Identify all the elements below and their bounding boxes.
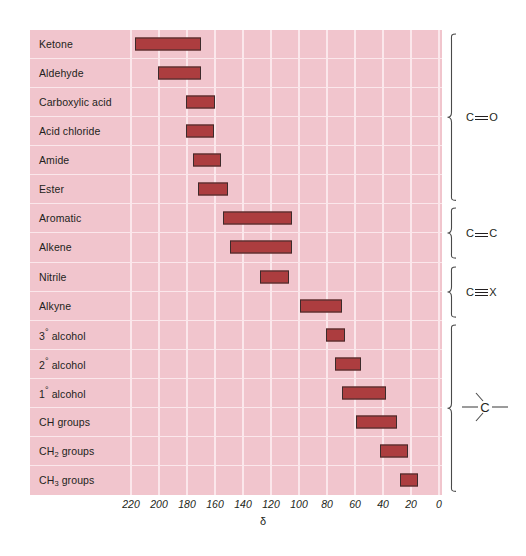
category-row: Carboxylic acid: [30, 88, 442, 117]
shift-range-bar: [326, 328, 346, 341]
row-label-nitrile: Nitrile: [39, 271, 67, 283]
brace-group-alkene: CC: [446, 207, 526, 259]
row-label-carboxylic-acid: Carboxylic acid: [39, 96, 112, 108]
category-row: Nitrile: [30, 263, 442, 292]
shift-range-bar: [186, 125, 214, 138]
row-label-1-alcohol: 1° alcohol: [39, 386, 86, 401]
row-label-3-alcohol: 3° alcohol: [39, 327, 86, 342]
category-row: 1° alcohol: [30, 379, 442, 408]
double-bond-icon: [475, 232, 488, 238]
row-label-ch-groups: CH groups: [39, 416, 90, 428]
category-row: 2° alcohol: [30, 350, 442, 379]
category-row: CH3 groups: [30, 466, 442, 495]
brace-group-carbonyl: CO: [446, 33, 526, 201]
brace-label-sp3-carbon: C: [462, 387, 508, 429]
row-label-ketone: Ketone: [39, 38, 73, 50]
x-tick-140: 140: [234, 498, 252, 510]
shift-range-bar: [260, 270, 289, 283]
shift-range-bar: [158, 67, 201, 80]
category-row: Aldehyde: [30, 59, 442, 88]
category-row: Aromatic: [30, 204, 442, 233]
category-row: Acid chloride: [30, 117, 442, 146]
svg-text:C: C: [480, 400, 490, 415]
curly-brace-icon: [446, 324, 460, 492]
row-label-ester: Ester: [39, 183, 64, 195]
plot-panel: KetoneAldehydeCarboxylic acidAcid chlori…: [30, 30, 442, 495]
x-tick-60: 60: [349, 498, 361, 510]
shift-range-bar: [342, 386, 385, 399]
row-label-ch3-groups: CH3 groups: [39, 474, 94, 486]
brace-label-carbonyl: CO: [466, 111, 498, 123]
curly-brace-icon: [446, 207, 460, 259]
category-row: 3° alcohol: [30, 321, 442, 350]
category-row: Amide: [30, 146, 442, 175]
x-tick-180: 180: [178, 498, 196, 510]
x-axis-title: δ: [0, 515, 526, 527]
curly-brace-icon: [446, 33, 460, 201]
row-label-alkyne: Alkyne: [39, 300, 71, 312]
shift-range-bar: [186, 96, 215, 109]
brace-group-triple-bond: CX: [446, 266, 526, 318]
x-tick-40: 40: [377, 498, 389, 510]
shift-range-bar: [135, 38, 201, 51]
row-label-2-alcohol: 2° alcohol: [39, 356, 86, 371]
row-label-aromatic: Aromatic: [39, 212, 81, 224]
x-tick-160: 160: [206, 498, 224, 510]
triple-bond-icon: [475, 289, 488, 297]
x-tick-0: 0: [436, 498, 442, 510]
shift-range-bar: [300, 299, 342, 312]
x-axis: 220200180160140120100806040200: [30, 498, 442, 514]
x-tick-80: 80: [321, 498, 333, 510]
x-tick-200: 200: [150, 498, 168, 510]
category-row: Ester: [30, 175, 442, 204]
category-row: CH groups: [30, 408, 442, 437]
top-caption: [70, 0, 440, 9]
brace-label-triple-bond: CX: [466, 286, 497, 298]
category-row: Alkyne: [30, 292, 442, 321]
shift-range-bar: [356, 415, 397, 428]
curly-brace-icon: [446, 266, 460, 318]
category-row: Alkene: [30, 233, 442, 262]
row-label-acid-chloride: Acid chloride: [39, 125, 100, 137]
x-tick-20: 20: [405, 498, 417, 510]
row-label-amide: Amide: [39, 154, 69, 166]
shift-range-bar: [223, 212, 292, 225]
category-row: Ketone: [30, 30, 442, 59]
shift-range-bar: [198, 183, 227, 196]
x-tick-120: 120: [262, 498, 280, 510]
sp3-carbon-icon: C: [462, 417, 508, 429]
row-label-alkene: Alkene: [39, 241, 72, 253]
x-tick-220: 220: [122, 498, 140, 510]
shift-range-bar: [193, 154, 221, 167]
brace-label-alkene: CC: [466, 227, 497, 239]
category-row: CH2 groups: [30, 437, 442, 466]
shift-range-bar: [400, 474, 418, 487]
row-label-aldehyde: Aldehyde: [39, 67, 84, 79]
shift-range-bar: [230, 241, 292, 254]
x-tick-100: 100: [290, 498, 308, 510]
brace-group-sp3-carbon: C: [446, 324, 526, 492]
double-bond-icon: [475, 115, 488, 121]
shift-range-bar: [335, 357, 360, 370]
shift-range-bar: [380, 444, 408, 457]
row-label-ch2-groups: CH2 groups: [39, 445, 94, 457]
nmr-chemical-shift-chart: KetoneAldehydeCarboxylic acidAcid chlori…: [0, 0, 526, 556]
